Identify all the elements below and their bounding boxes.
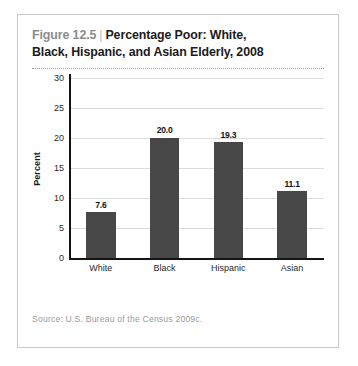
bar-group[interactable]: 20.0: [150, 126, 179, 258]
figure-title-line1: Percentage Poor: White,: [105, 28, 246, 42]
bar-asian[interactable]: [277, 191, 306, 258]
figure-inner: Figure 12.5|Percentage Poor: White, Blac…: [18, 15, 338, 347]
y-tick-label: 10: [54, 194, 64, 203]
y-tick-label: 0: [59, 254, 64, 263]
bar-group[interactable]: 7.6: [86, 201, 115, 258]
title-divider: [32, 68, 324, 69]
x-tick-label: Hispanic: [197, 264, 261, 273]
y-axis-title-label: Percent: [32, 152, 42, 186]
figure-title: Figure 12.5|Percentage Poor: White, Blac…: [32, 27, 324, 61]
bar-group[interactable]: 19.3: [214, 131, 243, 258]
y-tick-label: 15: [54, 164, 64, 173]
y-tick-label: 20: [54, 134, 64, 143]
bar-value-label: 11.1: [284, 180, 299, 189]
bar-hispanic[interactable]: [214, 142, 243, 258]
y-tick-label: 25: [54, 104, 64, 113]
x-tick-label: Black: [133, 264, 197, 273]
y-axis-title: Percent: [30, 78, 44, 260]
bar-value-label: 19.3: [220, 131, 236, 140]
source-note: Source: U.S. Bureau of the Census 2009c.: [32, 314, 324, 324]
x-axis-labels: WhiteBlackHispanicAsian: [69, 264, 324, 280]
x-tick-label: Asian: [260, 264, 324, 273]
bar-black[interactable]: [150, 138, 179, 258]
x-tick-label: White: [69, 264, 133, 273]
figure-number: Figure 12.5: [32, 28, 96, 42]
y-tick-label: 5: [59, 224, 64, 233]
y-tick-label: 30: [54, 74, 64, 83]
bar-value-label: 7.6: [95, 201, 106, 210]
bar-group[interactable]: 11.1: [277, 180, 306, 258]
plot-area: 051015202530 7.620.019.311.1: [69, 78, 324, 260]
bar-chart: Percent 051015202530 7.620.019.311.1 Whi…: [32, 78, 324, 290]
figure-panel: Figure 12.5|Percentage Poor: White, Blac…: [17, 14, 339, 348]
bar-white[interactable]: [86, 212, 115, 258]
bar-value-label: 20.0: [157, 126, 173, 135]
bars-layer: 7.620.019.311.1: [69, 78, 324, 260]
figure-title-line2: Black, Hispanic, and Asian Elderly, 2008: [32, 45, 264, 59]
